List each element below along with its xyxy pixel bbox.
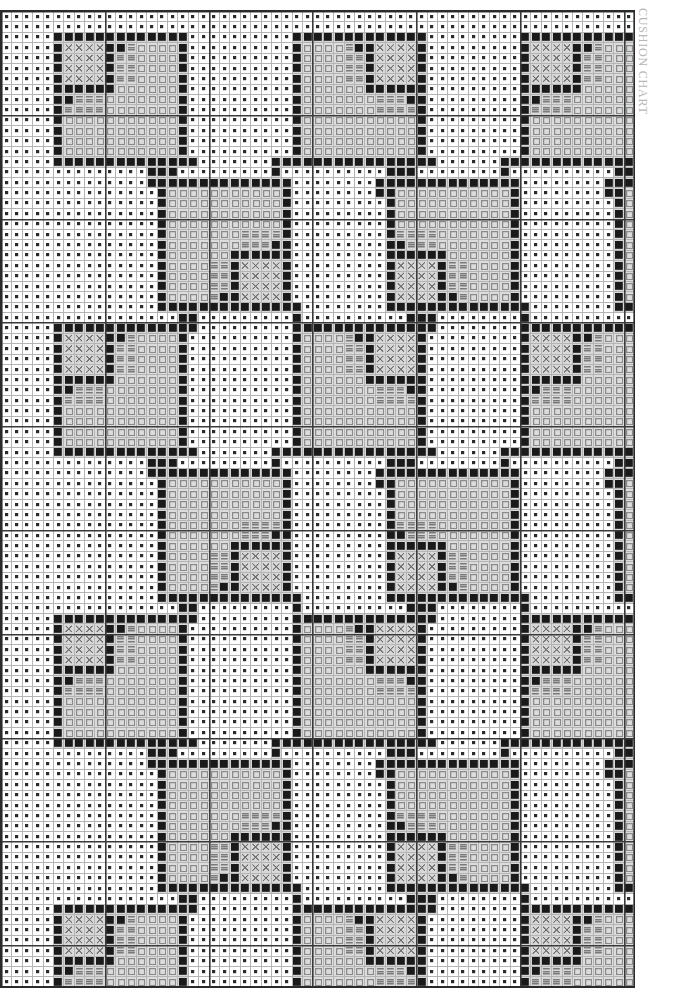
cross-stitch-grid — [0, 10, 635, 988]
page-title: CUSHION CHART — [635, 8, 650, 208]
cushion-chart-page: CUSHION CHART — [0, 0, 687, 998]
